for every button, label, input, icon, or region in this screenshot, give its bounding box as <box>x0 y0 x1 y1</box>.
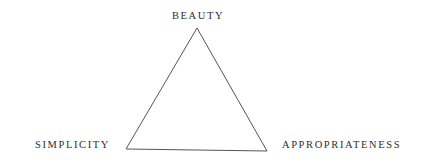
vertex-label-beauty: BEAUTY <box>172 11 224 22</box>
vertex-label-appropriateness: APPROPRIATENESS <box>282 140 401 151</box>
triangle-diagram: BEAUTY SIMPLICITY APPROPRIATENESS <box>0 0 423 164</box>
vertex-label-simplicity: SIMPLICITY <box>35 140 110 151</box>
triangle-outline <box>126 28 267 151</box>
